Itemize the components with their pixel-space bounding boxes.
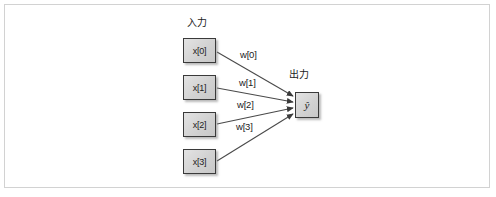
output-section-caption: 出力: [289, 66, 309, 81]
weight-label-w0: w[0]: [240, 49, 257, 60]
input-node-x3: x[3]: [183, 149, 216, 174]
input-node-x0: x[0]: [183, 38, 216, 63]
input-node-x2: x[2]: [183, 112, 216, 137]
weight-label-w3: w[3]: [236, 121, 253, 132]
weight-label-w1: w[1]: [239, 77, 256, 88]
weight-label-w2: w[2]: [237, 99, 254, 110]
figure-frame: [4, 4, 490, 188]
input-section-caption: 入力: [187, 14, 207, 29]
output-node-yhat: ŷ: [295, 92, 319, 118]
input-node-x1: x[1]: [183, 75, 216, 100]
figure-root: 入力 出力 x[0] x[1] x[2] x[3] w[0] w[1] w[2]…: [0, 0, 496, 197]
